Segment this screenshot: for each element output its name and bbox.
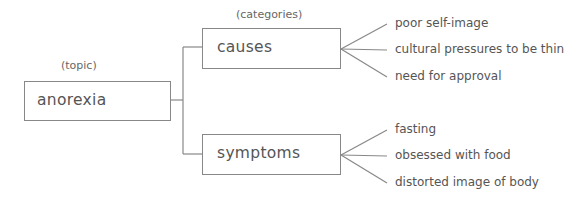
categories-label: (categories) bbox=[236, 8, 302, 21]
topic-text: anorexia bbox=[37, 91, 106, 109]
symptom-item: distorted image of body bbox=[395, 175, 539, 189]
symptom-item: fasting bbox=[395, 122, 436, 136]
category-box-symptoms: symptoms bbox=[202, 134, 341, 175]
topic-box: anorexia bbox=[24, 81, 171, 121]
symptom-item: obsessed with food bbox=[395, 148, 511, 162]
cause-item: cultural pressures to be thin bbox=[395, 42, 564, 56]
category-box-causes: causes bbox=[202, 28, 341, 69]
category-text-symptoms: symptoms bbox=[217, 144, 300, 162]
category-text-causes: causes bbox=[217, 38, 272, 56]
cause-item: need for approval bbox=[395, 69, 502, 83]
cause-item: poor self-image bbox=[395, 16, 488, 30]
topic-label: (topic) bbox=[61, 59, 97, 72]
